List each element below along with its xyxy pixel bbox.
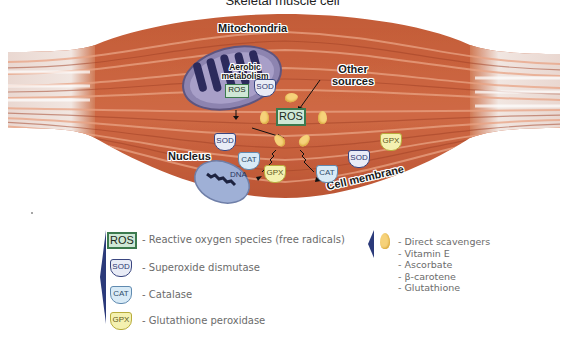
scavenger-list: - Direct scavengers - Vitamin E - Ascorb… [398, 236, 490, 294]
legend-scavenger-icon [380, 233, 390, 249]
legend-cat-badge: CAT [110, 286, 132, 304]
other-sources-label: Other sources [328, 63, 378, 87]
scavenger-item: - Ascorbate [398, 259, 490, 271]
scavenger-icon [318, 111, 327, 124]
scavenger-item: - β-carotene [398, 271, 490, 283]
legend-gpx-badge: GPX [110, 312, 132, 330]
scavenger-item: - Glutathione [398, 282, 490, 294]
scavenger-icon [260, 111, 269, 124]
legend-sod-text: - Superoxide dismutase [142, 262, 260, 273]
legend-ros-text: - Reactive oxygen species (free radicals… [142, 234, 345, 245]
cat-badge: CAT [238, 152, 260, 170]
sod-badge: SOD [214, 133, 236, 151]
legend-gpx-text: - Glutathione peroxidase [142, 315, 265, 326]
legend-sod-badge: SOD [110, 259, 132, 277]
scavenger-item: - Direct scavengers [398, 236, 490, 248]
legend-scavenger-bracket-icon [367, 230, 375, 258]
mitochondria-label: Mitochondria [218, 22, 287, 34]
ros-badge-center: ROS [276, 108, 306, 126]
cat-badge: CAT [316, 165, 338, 183]
gpx-badge: GPX [264, 165, 286, 183]
ros-badge-mitochondria: ROS [225, 84, 249, 98]
sod-badge-mitochondria: SOD [254, 79, 276, 97]
nucleus-label: Nucleus [168, 150, 211, 162]
legend-ros-badge: ROS [107, 232, 137, 249]
gpx-badge: GPX [380, 133, 402, 151]
dna-label: DNA [230, 170, 247, 179]
legend-cat-text: - Catalase [142, 289, 192, 300]
scavenger-item: - Vitamin E [398, 248, 490, 260]
stray-dot [31, 212, 33, 214]
sod-badge: SOD [348, 150, 370, 168]
